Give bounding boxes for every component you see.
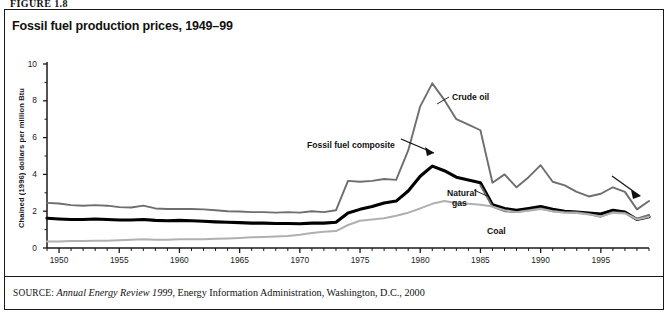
y-tick-label: 0 bbox=[15, 243, 37, 253]
x-tick-label: 1995 bbox=[581, 255, 621, 265]
x-tick-label: 1960 bbox=[159, 255, 199, 265]
source-divider bbox=[5, 276, 663, 277]
x-tick-label: 1985 bbox=[460, 255, 500, 265]
source-note: SOURCE: Annual Energy Review 1999, Energ… bbox=[13, 287, 425, 298]
x-tick-label: 1990 bbox=[521, 255, 561, 265]
series-fossil-fuel-composite bbox=[47, 166, 649, 224]
annotation-crude-oil: Crude oil bbox=[452, 92, 489, 102]
x-tick-label: 1965 bbox=[220, 255, 260, 265]
y-tick-label: 6 bbox=[15, 132, 37, 142]
y-tick-label: 4 bbox=[15, 169, 37, 179]
y-tick-label: 2 bbox=[15, 206, 37, 216]
annotation-coal: Coal bbox=[487, 226, 506, 236]
chart-plot-area bbox=[0, 0, 670, 320]
x-tick-label: 1975 bbox=[340, 255, 380, 265]
x-tick-label: 1970 bbox=[280, 255, 320, 265]
x-tick-label: 1980 bbox=[400, 255, 440, 265]
y-tick-label: 10 bbox=[15, 59, 37, 69]
annotation-arrowhead bbox=[425, 147, 434, 156]
source-title: Annual Energy Review 1999 bbox=[57, 287, 173, 298]
x-tick-label: 1950 bbox=[39, 255, 79, 265]
annotation-natural-gas-line2: gas bbox=[452, 198, 467, 208]
line-chart-svg bbox=[0, 0, 670, 320]
source-rest: , Energy Information Administration, Was… bbox=[172, 287, 424, 298]
annotation-fossil-fuel-composite: Fossil fuel composite bbox=[307, 140, 395, 150]
source-prefix: SOURCE: bbox=[13, 288, 54, 298]
y-tick-label: 8 bbox=[15, 95, 37, 105]
x-tick-label: 1955 bbox=[99, 255, 139, 265]
annotation-natural-gas-line1: Natural bbox=[447, 188, 477, 198]
